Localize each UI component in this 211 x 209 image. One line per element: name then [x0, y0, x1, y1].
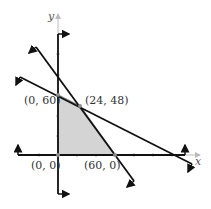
- arrow-shallow-bottom: [188, 164, 192, 172]
- x-axis-label: x: [195, 155, 202, 168]
- arrow-steep-top: [29, 47, 36, 53]
- vertex-label-0-60: (0, 60): [24, 94, 61, 107]
- y-axis-label: y: [47, 10, 55, 23]
- arrow-shallow-top: [16, 77, 20, 85]
- vertex-label-60-0: (60, 0): [84, 159, 121, 172]
- vertex-label-0-0: (0, 0): [31, 159, 61, 172]
- vertex-label-24-48: (24, 48): [85, 94, 129, 107]
- diagram-svg: y x (0, 60) (24, 48) (0, 0) (60, 0): [0, 0, 211, 209]
- arrow-steep-bottom: [127, 181, 134, 187]
- lp-diagram: y x (0, 60) (24, 48) (0, 0) (60, 0): [0, 0, 211, 209]
